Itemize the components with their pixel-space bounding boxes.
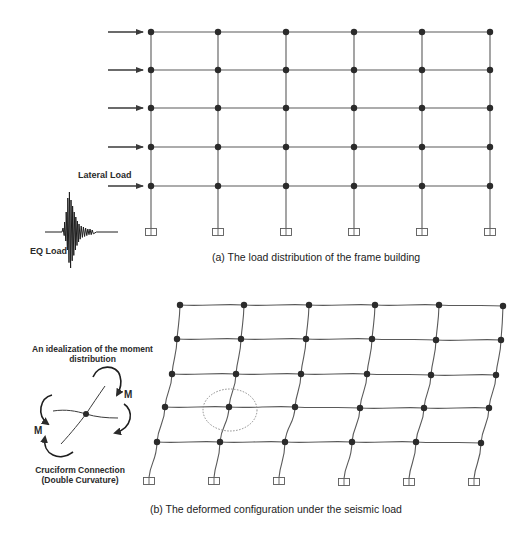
eq-load-waveform-icon (45, 192, 118, 268)
moment-arrow-icon (41, 395, 52, 424)
joint-node (215, 144, 221, 150)
joint-node (148, 67, 154, 73)
joint-node (306, 302, 312, 308)
deformed-beam (172, 374, 236, 375)
joint-node (419, 183, 425, 189)
deformed-beam (416, 442, 481, 443)
joint-node (292, 404, 298, 410)
deformed-beam (244, 305, 309, 306)
joint-node (369, 336, 375, 342)
deformed-beam (177, 339, 241, 340)
connection-label: Cruciform Connection (Double Curvature) (20, 465, 140, 485)
deformed-column (474, 306, 503, 479)
deformed-beam (165, 407, 229, 408)
deformed-beam (424, 408, 489, 409)
moment-arrow-icon (115, 404, 130, 433)
deformed-beam (301, 374, 367, 375)
deformed-beam (229, 407, 295, 408)
joint-node (487, 29, 493, 35)
deformed-beam (431, 375, 496, 376)
deformed-beam (436, 340, 501, 341)
joint-node (498, 337, 504, 343)
deformed-column (344, 305, 375, 479)
connection-column (61, 386, 105, 444)
joint-node (148, 29, 154, 35)
joint-node (486, 405, 492, 411)
eq-load-label: EQ Load (30, 246, 67, 256)
connection-label-line2: (Double Curvature) (20, 475, 140, 485)
caption-b: (b) The deformed configuration under the… (150, 503, 402, 515)
joint-node (357, 405, 363, 411)
cruciform-connection-detail (41, 367, 131, 456)
joint-node (487, 67, 493, 73)
joint-node (283, 144, 289, 150)
joint-node (478, 440, 484, 446)
joint-node (215, 183, 221, 189)
joint-node (487, 105, 493, 111)
deformed-beam (180, 305, 244, 306)
joint-node (169, 371, 175, 377)
joint-node (282, 439, 288, 445)
joint-node (226, 404, 232, 410)
joint-node (233, 371, 239, 377)
deformed-beam (220, 442, 285, 443)
joint-node (238, 336, 244, 342)
joint-node (241, 302, 247, 308)
connection-node (83, 411, 89, 417)
joint-node (419, 105, 425, 111)
deformed-column (279, 305, 309, 478)
deformed-frame (144, 302, 507, 486)
joint-node (351, 183, 357, 189)
moment-label-right: M (124, 389, 132, 400)
joint-node (148, 183, 154, 189)
joint-node (413, 439, 419, 445)
joint-node (419, 67, 425, 73)
joint-node (351, 67, 357, 73)
joint-node (162, 404, 168, 410)
joint-node (349, 439, 355, 445)
deformed-beam (306, 339, 372, 340)
joint-node (283, 183, 289, 189)
joint-node (372, 302, 378, 308)
moment-title-line1: An idealization of the moment (20, 344, 165, 354)
caption-a: (a) The load distribution of the frame b… (212, 251, 420, 263)
joint-node (364, 371, 370, 377)
joint-node (174, 336, 180, 342)
deformed-beam (372, 339, 436, 340)
joint-node (215, 29, 221, 35)
deformed-beam (360, 408, 424, 409)
deformed-beam (367, 374, 431, 375)
deformed-column (214, 305, 244, 478)
joint-node (303, 336, 309, 342)
joint-node (351, 144, 357, 150)
frame-diagram (0, 0, 528, 538)
joint-node (419, 144, 425, 150)
moment-arrow-icon (93, 367, 121, 395)
deformed-beam (157, 442, 220, 443)
joint-node (177, 302, 183, 308)
joint-node (217, 439, 223, 445)
joint-node (148, 144, 154, 150)
joint-node (493, 372, 499, 378)
deformed-beam (241, 339, 306, 340)
joint-node (148, 105, 154, 111)
joint-node (428, 372, 434, 378)
deformed-beam (309, 305, 375, 306)
joint-node (421, 405, 427, 411)
joint-node (487, 144, 493, 150)
undeformed-frame (108, 29, 496, 236)
joint-node (283, 105, 289, 111)
deformed-beam (285, 442, 352, 443)
deformed-beam (375, 305, 439, 306)
deformed-beam (295, 407, 360, 408)
moment-arrow-icon (45, 437, 73, 457)
joint-node (283, 67, 289, 73)
joint-node (436, 302, 442, 308)
deformed-column (149, 305, 180, 478)
joint-node (351, 105, 357, 111)
deformed-beam (236, 374, 301, 375)
deformed-beam (439, 305, 503, 306)
joint-node (298, 371, 304, 377)
deformed-beam (352, 442, 416, 443)
joint-node (487, 183, 493, 189)
